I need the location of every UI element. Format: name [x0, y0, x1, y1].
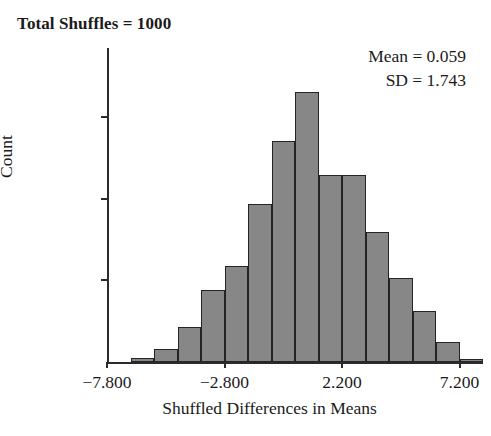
histogram-bar [272, 141, 296, 362]
x-tick-label: 2.200 [322, 372, 361, 393]
histogram-bar [389, 278, 413, 362]
y-axis-title: Count [0, 135, 17, 178]
histogram-bar [295, 92, 319, 362]
x-tick-mark [341, 362, 343, 368]
x-axis-line [107, 362, 483, 364]
histogram-bar [319, 175, 343, 362]
histogram-bar [413, 311, 437, 362]
page-title: Total Shuffles = 1000 [17, 14, 171, 34]
x-tick-label: 7.200 [440, 372, 479, 393]
histogram-figure: Total Shuffles = 1000 Mean = 0.059 SD = … [0, 0, 491, 436]
x-tick-mark [224, 362, 226, 368]
x-tick-label: −7.800 [82, 372, 131, 393]
x-tick-mark [459, 362, 461, 368]
histogram-bar [436, 342, 460, 362]
histogram-bar [225, 266, 249, 362]
x-axis-title: Shuffled Differences in Means [0, 398, 491, 419]
histogram-bars [107, 48, 483, 362]
histogram-bar [154, 349, 178, 362]
histogram-bar [178, 327, 202, 362]
histogram-bar [201, 290, 225, 362]
histogram-bar [342, 175, 366, 362]
histogram-bar [460, 359, 484, 362]
histogram-bar [366, 232, 390, 362]
histogram-bar [131, 358, 155, 362]
histogram-bar [248, 204, 272, 362]
x-tick-mark [106, 362, 108, 368]
x-tick-label: −2.800 [200, 372, 249, 393]
